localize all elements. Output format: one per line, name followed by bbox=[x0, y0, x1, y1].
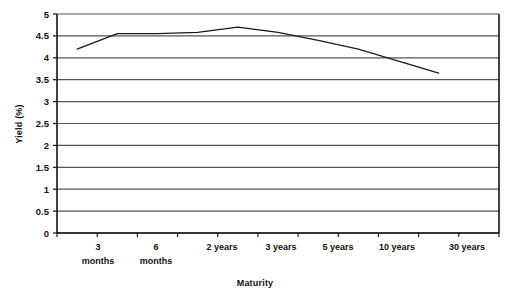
y-axis-title: Yield (%) bbox=[14, 104, 24, 143]
x-tick-label: 2 years bbox=[206, 242, 237, 252]
y-tick-label: 2 bbox=[44, 140, 49, 151]
x-tick-label: 5 years bbox=[322, 242, 353, 252]
y-gridlines: 00.511.522.533.544.55 bbox=[36, 9, 499, 239]
y-tick-label: 0 bbox=[44, 228, 49, 239]
x-axis-title: Maturity bbox=[237, 278, 274, 288]
yield-curve-line bbox=[77, 27, 439, 73]
y-tick-label: 3 bbox=[44, 96, 49, 107]
x-tick-labels: 3months6months2 years3 years5 years10 ye… bbox=[82, 242, 485, 266]
y-tick-label: 3.5 bbox=[36, 74, 50, 85]
y-tick-label: 4 bbox=[44, 52, 50, 63]
y-tick-label: 4.5 bbox=[36, 30, 50, 41]
x-tick-label: 10 years bbox=[379, 242, 415, 252]
x-tick-label: 30 years bbox=[449, 242, 485, 252]
x-tick-label-second-line: months bbox=[140, 256, 173, 266]
y-tick-label: 5 bbox=[44, 9, 50, 20]
chart-canvas: 00.511.522.533.544.553months6months2 yea… bbox=[0, 0, 507, 296]
y-tick-label: 0.5 bbox=[36, 206, 50, 217]
y-tick-label: 1.5 bbox=[36, 162, 50, 173]
x-tick-label-second-line: months bbox=[82, 256, 115, 266]
y-tick-label: 2.5 bbox=[36, 118, 50, 129]
x-tick-label: 3 years bbox=[265, 242, 296, 252]
y-tick-label: 1 bbox=[44, 184, 50, 195]
yield-curve-chart: 00.511.522.533.544.553months6months2 yea… bbox=[0, 0, 507, 296]
x-tick-label: 6 bbox=[153, 242, 158, 252]
x-tick-label: 3 bbox=[95, 242, 100, 252]
